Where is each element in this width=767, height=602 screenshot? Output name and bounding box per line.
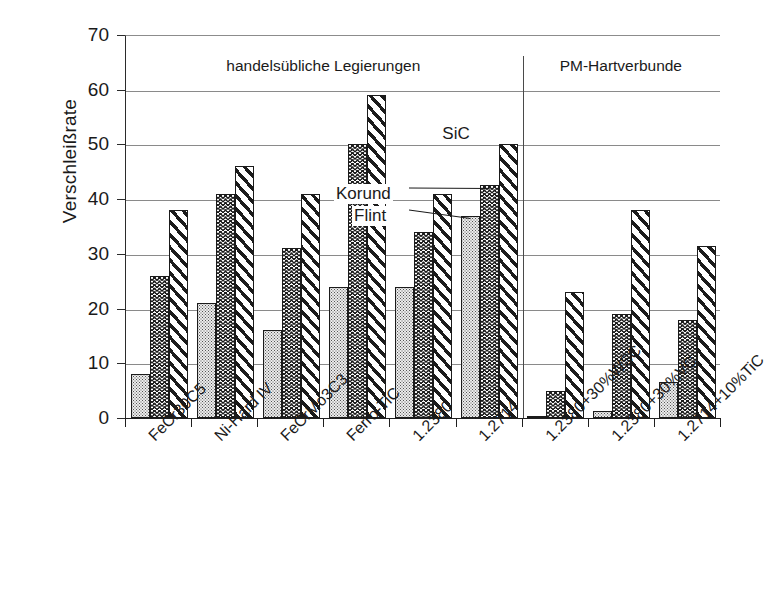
y-tick-label-40: 40 [63,188,109,210]
x-tick-2 [257,418,258,427]
y-tick-60 [117,90,125,91]
annotation-korund: Korund [334,184,393,204]
y-tick-0 [117,418,125,419]
x-tick-3 [323,418,324,427]
y-tick-label-70: 70 [63,24,109,46]
x-tick-5 [456,418,457,427]
y-tick-70 [117,35,125,36]
y-tick-30 [117,254,125,255]
annotation-sic: SiC [440,124,471,144]
x-tick-7 [588,418,589,427]
x-tick-4 [389,418,390,427]
y-tick-50 [117,144,125,145]
y-tick-20 [117,309,125,310]
y-tick-40 [117,199,125,200]
x-tick-0 [125,418,126,427]
y-tick-label-60: 60 [63,79,109,101]
y-tick-10 [117,363,125,364]
x-tick-8 [654,418,655,427]
annotation-flint: Flint [352,206,388,226]
y-tick-label-30: 30 [63,243,109,265]
x-tick-9 [720,418,721,427]
y-tick-label-20: 20 [63,298,109,320]
x-tick-6 [522,418,523,427]
y-tick-label-0: 0 [63,407,109,429]
section-label-0: handelsübliche Legierungen [226,57,420,75]
x-tick-1 [191,418,192,427]
section-label-1: PM-Hartverbunde [560,57,682,75]
y-tick-label-10: 10 [63,352,109,374]
y-tick-label-50: 50 [63,133,109,155]
